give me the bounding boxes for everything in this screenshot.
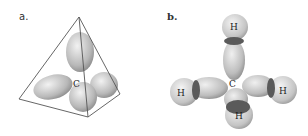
carbon-label: C — [73, 79, 80, 89]
hydrogen-label-top: H — [230, 22, 238, 32]
sp3-orbitals-diagram: C — [0, 0, 154, 136]
orbital-lobe-left — [31, 70, 76, 104]
overlap-right — [267, 78, 275, 98]
hydrogen-label-right: H — [279, 86, 287, 96]
hydrogen-label-left: H — [177, 88, 185, 98]
panel-a-tetrahedron: a. C — [0, 0, 154, 136]
tetrahedron-outline — [19, 17, 120, 117]
carbon-label: C — [229, 79, 236, 89]
panel-b-methane: b. H H H H — [154, 0, 308, 136]
bond-lobe-top — [223, 40, 245, 80]
overlap-top — [224, 37, 244, 45]
hydrogen-label-front: H — [235, 111, 243, 121]
overlap-left — [192, 80, 200, 100]
methane-diagram: H H H H C — [154, 0, 308, 136]
